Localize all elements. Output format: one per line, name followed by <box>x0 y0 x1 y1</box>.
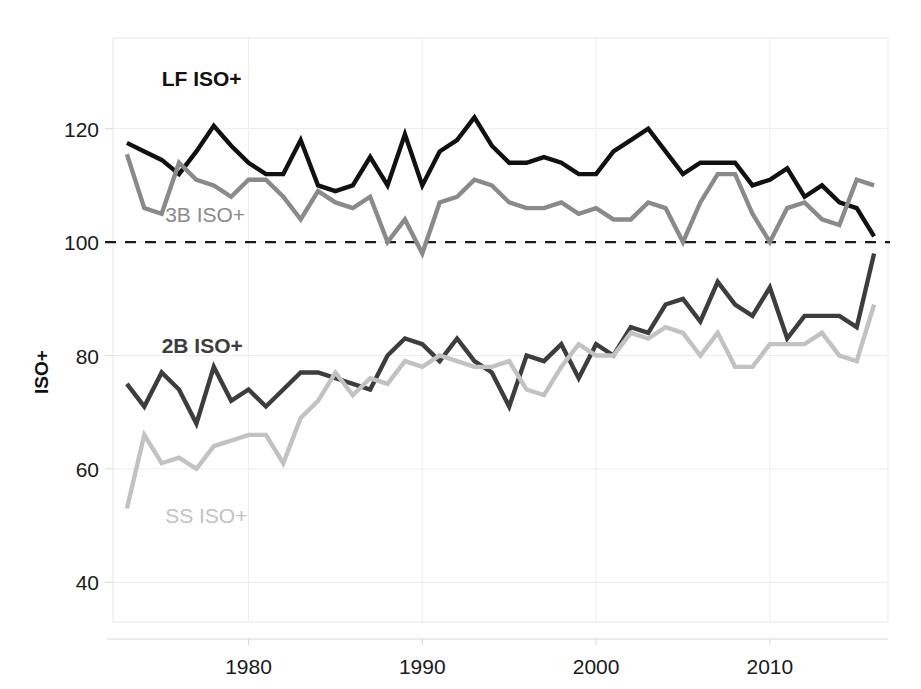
series-lines <box>127 117 874 508</box>
x-tick-label: 1980 <box>225 655 272 678</box>
y-axis-tick-labels: 406080100120 <box>64 118 99 595</box>
series-label-ss: SS ISO+ <box>165 504 247 527</box>
y-tick-label: 40 <box>76 571 99 594</box>
chart-container: 406080100120 1980199020002010 LF ISO+3B … <box>0 0 921 689</box>
series-label-2b: 2B ISO+ <box>162 334 243 357</box>
y-tick-label: 120 <box>64 118 99 141</box>
x-tick-label: 2000 <box>573 655 620 678</box>
y-tick-label: 100 <box>64 231 99 254</box>
x-axis-tick-labels: 1980199020002010 <box>225 655 793 678</box>
y-tick-label: 80 <box>76 345 99 368</box>
x-tick-label: 1990 <box>399 655 446 678</box>
x-tick-label: 2010 <box>746 655 793 678</box>
y-tick-label: 60 <box>76 458 99 481</box>
gridlines <box>113 38 888 622</box>
y-axis-title: ISO+ <box>31 350 52 394</box>
series-label-3b: 3B ISO+ <box>165 203 245 226</box>
iso-plus-line-chart: 406080100120 1980199020002010 LF ISO+3B … <box>0 0 921 689</box>
series-label-lf: LF ISO+ <box>162 67 242 90</box>
